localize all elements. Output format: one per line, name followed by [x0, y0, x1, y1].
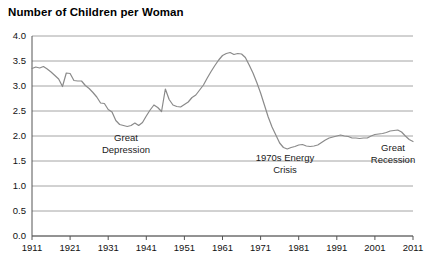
- x-axis-tick-label: 2011: [403, 242, 423, 253]
- x-axis-tick-label: 1911: [22, 242, 42, 253]
- y-axis-tick-label: 2.5: [13, 105, 26, 116]
- y-axis-tick-label: 1.5: [13, 155, 26, 166]
- y-axis-tick-label: 0.0: [13, 230, 26, 241]
- data-line-total-fertility-rate: [32, 53, 413, 150]
- y-axis-tick-label: 3.0: [13, 80, 26, 91]
- x-axis-tick-label: 1931: [98, 242, 119, 253]
- x-axis-tick-label: 1971: [250, 242, 271, 253]
- x-axis-tick-label: 1951: [174, 242, 195, 253]
- y-axis-tick-label: 1.0: [13, 180, 26, 191]
- x-axis-tick-label: 1991: [326, 242, 347, 253]
- x-axis-tick-label: 1981: [288, 242, 309, 253]
- data-series: [32, 53, 413, 150]
- annotation-great-recession: Great: [381, 142, 405, 153]
- x-axis-tick-label: 2001: [364, 242, 385, 253]
- annotation-energy-crisis: 1970s Energy: [256, 152, 315, 163]
- y-axis-tick-labels: 4.03.53.02.52.01.51.00.50.0: [13, 30, 26, 241]
- x-axis-tick-label: 1941: [136, 242, 157, 253]
- y-axis-tick-label: 0.5: [13, 205, 26, 216]
- x-axis-tick-labels: 1911192119311941195119611971198119912001…: [22, 242, 423, 253]
- chart-figure: Number of Children per Woman 4.03.53.02.…: [0, 0, 435, 264]
- annotation-great-recession: Recession: [371, 154, 415, 165]
- y-axis-tick-label: 3.5: [13, 55, 26, 66]
- x-axis-tick-label: 1921: [60, 242, 81, 253]
- x-axis-tick-marks: [32, 236, 413, 240]
- y-axis-tick-label: 4.0: [13, 30, 26, 41]
- annotation-great-depression: Depression: [102, 144, 150, 155]
- line-chart-plot: 4.03.53.02.52.01.51.00.50.0 191119211931…: [0, 0, 435, 264]
- x-axis-tick-label: 1961: [212, 242, 233, 253]
- y-axis-tick-label: 2.0: [13, 130, 26, 141]
- annotation-great-depression: Great: [114, 132, 138, 143]
- annotation-energy-crisis: Crisis: [273, 164, 297, 175]
- gridlines: [32, 36, 413, 236]
- chart-annotations: GreatDepression1970s EnergyCrisisGreatRe…: [102, 132, 415, 175]
